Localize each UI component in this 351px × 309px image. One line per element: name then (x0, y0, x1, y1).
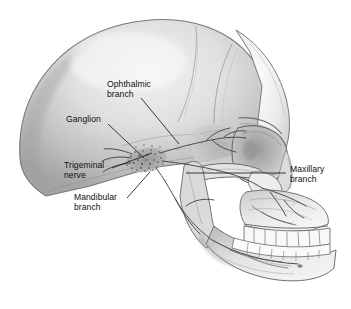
trigeminal-nerve-skull-figure: Ophthalmic branch Ganglion Trigeminal ne… (0, 0, 351, 309)
trigeminal-nerve-label-line2: nerve (64, 170, 86, 180)
ganglion-label-line1: Ganglion (66, 114, 101, 124)
mandibular-branch-label: Mandibular branch (74, 192, 117, 212)
maxillary-branch-label: Maxillary branch (290, 164, 324, 184)
maxilla (240, 190, 328, 232)
ophthalmic-branch-label: Ophthalmic branch (107, 79, 151, 99)
mandibular-branch-label-line2: branch (74, 202, 101, 212)
maxillary-branch-label-line1: Maxillary (290, 164, 324, 174)
ophthalmic-branch-label-line2: branch (107, 89, 134, 99)
trigeminal-nerve-label: Trigeminal nerve (64, 160, 104, 180)
skull-illustration (0, 0, 351, 309)
leader-mandibular (127, 172, 150, 198)
ophthalmic-branch-label-line1: Ophthalmic (107, 79, 151, 89)
maxillary-branch-label-line2: branch (290, 174, 317, 184)
trigeminal-nerve-label-line1: Trigeminal (64, 160, 104, 170)
mandibular-branch-label-line1: Mandibular (74, 192, 117, 202)
ganglion-label: Ganglion (66, 114, 101, 124)
